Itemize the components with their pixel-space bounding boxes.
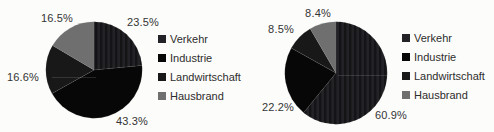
slice-label-landwirtschaft-left: 16.6% [7,71,39,83]
legend-item-hausbrand: Hausbrand [158,89,241,103]
legend-marker [402,72,410,80]
slice-label-verkehr-right: 60.9% [375,109,407,121]
pie-slice-texture [94,22,142,70]
legend-label: Industrie [414,51,456,63]
legend-marker [402,91,410,99]
legend-label: Verkehr [170,33,208,45]
legend-label: Verkehr [414,32,452,44]
slice-label-verkehr-left: 23.5% [127,16,159,28]
legend-item-hausbrand: Hausbrand [402,88,485,102]
legend-label: Landwirtschaft [414,70,485,82]
legend-item-landwirtschaft: Landwirtschaft [402,69,485,83]
legend-label: Hausbrand [170,90,224,102]
scan-streak [52,77,96,78]
legend-marker [158,35,166,43]
slice-label-hausbrand-right: 8.4% [305,7,331,19]
legend-label: Industrie [170,52,212,64]
legend-left: Verkehr Industrie Landwirtschaft Hausbra… [158,32,241,108]
legend-item-verkehr: Verkehr [402,31,485,45]
pie-chart-right [284,21,388,125]
legend-marker [402,53,410,61]
legend-right: Verkehr Industrie Landwirtschaft Hausbra… [402,31,485,107]
legend-label: Hausbrand [414,89,468,101]
legend-item-industrie: Industrie [158,51,241,65]
legend-item-industrie: Industrie [402,50,485,64]
legend-marker [158,73,166,81]
slice-label-hausbrand-left: 16.5% [41,12,73,24]
legend-item-verkehr: Verkehr [158,32,241,46]
scan-streak [338,75,388,76]
legend-marker [402,34,410,42]
figure: 23.5% 43.3% 16.6% 16.5% Verkehr Industri… [0,0,494,132]
legend-item-landwirtschaft: Landwirtschaft [158,70,241,84]
slice-label-industrie-left: 43.3% [116,115,148,127]
pie-chart-left [45,21,143,119]
legend-marker [158,54,166,62]
legend-marker [158,92,166,100]
slice-label-landwirtschaft-right: 8.5% [268,23,294,35]
legend-label: Landwirtschaft [170,71,241,83]
slice-label-industrie-right: 22.2% [262,101,294,113]
